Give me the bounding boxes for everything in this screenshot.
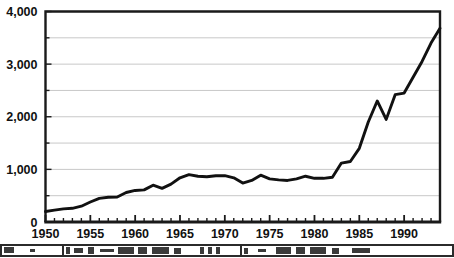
x-axis-label: 1965: [166, 227, 194, 241]
y-axis-label: 1,000: [6, 163, 37, 177]
scan-artifact-strip: [0, 243, 454, 258]
x-axis-label: 1960: [121, 227, 149, 241]
x-axis-label: 1955: [76, 227, 104, 241]
x-axis-label: 1990: [390, 227, 418, 241]
x-axis-label: 1985: [345, 227, 373, 241]
y-axis-label: 2,000: [6, 110, 37, 124]
x-axis-label: 1980: [301, 227, 329, 241]
chart-canvas: 01,0002,0003,0004,0001950195519601965197…: [0, 0, 454, 243]
y-axis-label: 4,000: [6, 5, 37, 19]
line-chart: 01,0002,0003,0004,0001950195519601965197…: [0, 0, 454, 258]
y-axis-label: 3,000: [6, 58, 37, 72]
x-axis-label: 1950: [32, 227, 60, 241]
data-series-line: [46, 28, 441, 211]
x-axis-label: 1975: [256, 227, 284, 241]
x-axis-label: 1970: [211, 227, 239, 241]
